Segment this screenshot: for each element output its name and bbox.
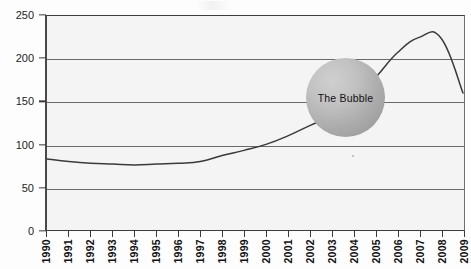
x-tick-mark-1993 bbox=[112, 231, 113, 237]
y-tick-label-100: 100 bbox=[16, 139, 34, 151]
x-tick-mark-1994 bbox=[134, 231, 135, 237]
x-tick-label-2000: 2000 bbox=[261, 239, 272, 264]
cropped-title-artifact bbox=[196, 1, 232, 10]
x-tick-label-2006: 2006 bbox=[393, 239, 404, 264]
x-tick-mark-2002 bbox=[310, 231, 311, 237]
x-tick-label-1999: 1999 bbox=[239, 239, 250, 264]
x-tick-mark-1990 bbox=[46, 231, 47, 237]
y-axis: 050100150200250 bbox=[0, 0, 46, 269]
x-tick-mark-2003 bbox=[332, 231, 333, 237]
x-tick-label-1990: 1990 bbox=[41, 239, 52, 264]
x-tick-mark-1998 bbox=[222, 231, 223, 237]
x-tick-label-1993: 1993 bbox=[107, 239, 118, 264]
x-tick-label-2001: 2001 bbox=[283, 239, 294, 264]
x-tick-label-1995: 1995 bbox=[151, 239, 162, 264]
y-tick-label-250: 250 bbox=[16, 9, 34, 21]
y-tick-mark-50 bbox=[39, 187, 46, 188]
x-tick-mark-2001 bbox=[288, 231, 289, 237]
y-tick-mark-200 bbox=[39, 58, 46, 59]
x-tick-mark-2007 bbox=[420, 231, 421, 237]
x-tick-label-2005: 2005 bbox=[371, 239, 382, 264]
x-tick-label-2003: 2003 bbox=[327, 239, 338, 264]
x-tick-label-2008: 2008 bbox=[437, 239, 448, 264]
x-tick-label-1998: 1998 bbox=[217, 239, 228, 264]
y-tick-label-150: 150 bbox=[16, 95, 34, 107]
x-tick-mark-1996 bbox=[178, 231, 179, 237]
x-tick-label-2002: 2002 bbox=[305, 239, 316, 264]
x-tick-label-2004: 2004 bbox=[349, 239, 360, 264]
y-tick-mark-100 bbox=[39, 144, 46, 145]
x-axis: 1990199119921993199419951996199719981999… bbox=[46, 231, 465, 269]
x-tick-label-1994: 1994 bbox=[129, 239, 140, 264]
scan-speck bbox=[352, 155, 354, 157]
x-tick-label-2007: 2007 bbox=[415, 239, 426, 264]
bubble-annotation-label: The Bubble bbox=[318, 92, 374, 104]
x-tick-mark-1997 bbox=[200, 231, 201, 237]
bubble-annotation: The Bubble bbox=[306, 58, 385, 137]
x-tick-mark-1995 bbox=[156, 231, 157, 237]
y-tick-label-0: 0 bbox=[28, 225, 34, 237]
plot-area bbox=[46, 15, 465, 231]
x-tick-mark-2008 bbox=[442, 231, 443, 237]
x-tick-mark-1999 bbox=[244, 231, 245, 237]
x-tick-label-1996: 1996 bbox=[173, 239, 184, 264]
x-tick-label-1992: 1992 bbox=[85, 239, 96, 264]
housing-bubble-line-chart: Housing Bubble the reverse side of the p… bbox=[0, 0, 471, 269]
y-tick-mark-150 bbox=[39, 101, 46, 102]
y-tick-mark-250 bbox=[39, 14, 46, 15]
x-tick-label-1991: 1991 bbox=[63, 239, 74, 264]
x-tick-label-1997: 1997 bbox=[195, 239, 206, 264]
x-tick-mark-1991 bbox=[68, 231, 69, 237]
x-tick-mark-2005 bbox=[376, 231, 377, 237]
x-tick-mark-1992 bbox=[90, 231, 91, 237]
x-tick-mark-2004 bbox=[354, 231, 355, 237]
x-tick-mark-2006 bbox=[398, 231, 399, 237]
data-series-line bbox=[47, 16, 464, 230]
x-tick-mark-2000 bbox=[266, 231, 267, 237]
y-tick-label-200: 200 bbox=[16, 52, 34, 64]
y-tick-label-50: 50 bbox=[22, 182, 34, 194]
x-tick-label-2009: 2009 bbox=[459, 239, 470, 264]
x-tick-mark-2009 bbox=[464, 231, 465, 237]
y-tick-mark-0 bbox=[39, 230, 46, 231]
